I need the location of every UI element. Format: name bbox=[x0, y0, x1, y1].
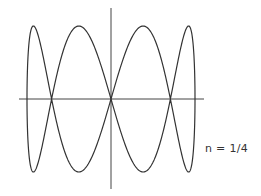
n-annotation: n = 1/4 bbox=[205, 142, 248, 155]
lissajous-plot bbox=[0, 0, 261, 196]
